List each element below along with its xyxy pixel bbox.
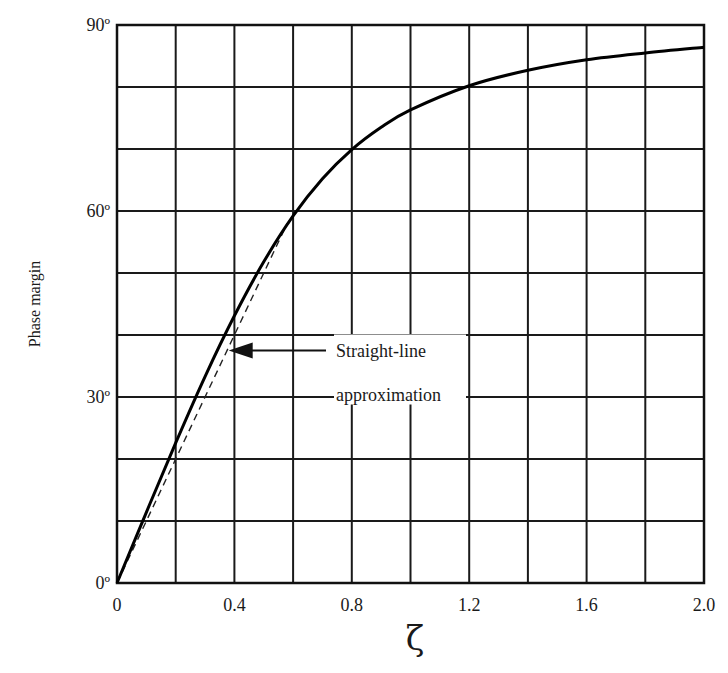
- x-tick-label: 1.2: [458, 595, 481, 615]
- annotation-arrow-icon: [229, 343, 253, 359]
- y-tick-label: 60º: [86, 201, 110, 221]
- x-axis-label: ζ: [406, 618, 424, 658]
- y-axis-label: Phase margin: [26, 261, 44, 347]
- x-tick-label: 0.8: [341, 595, 364, 615]
- approximation-annotation: Straight-line approximation: [229, 335, 466, 405]
- y-tick-label: 90º: [86, 15, 110, 35]
- y-axis-ticks: 0º30º60º90º: [86, 15, 110, 593]
- x-tick-label: 2.0: [693, 595, 716, 615]
- straight-line-approximation: [117, 223, 287, 583]
- annotation-line-2: approximation: [336, 385, 441, 405]
- x-tick-label: 1.6: [575, 595, 598, 615]
- x-tick-label: 0.4: [223, 595, 246, 615]
- phase-margin-chart: 0º30º60º90º 00.40.81.21.62.0 Straight-li…: [0, 0, 728, 673]
- y-tick-label: 30º: [86, 387, 110, 407]
- x-axis-ticks: 00.40.81.21.62.0: [113, 595, 716, 615]
- y-tick-label: 0º: [95, 573, 110, 593]
- annotation-line-1: Straight-line: [336, 341, 426, 361]
- x-tick-label: 0: [113, 595, 122, 615]
